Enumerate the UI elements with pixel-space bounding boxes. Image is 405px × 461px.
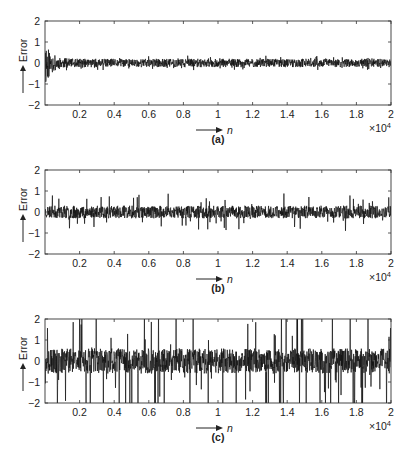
x-tick-label: 1.4 <box>280 257 295 269</box>
x-tick-label: 0.4 <box>107 257 122 269</box>
y-tick-label: 1 <box>34 334 40 346</box>
x-tick-label: 1 <box>215 108 221 120</box>
x-tick-label: 1.8 <box>349 257 364 269</box>
x-tick-label: 1.2 <box>245 406 260 418</box>
y-tick-label: 2 <box>34 164 40 176</box>
svg-text:n: n <box>227 124 233 136</box>
x-tick-label: 0.2 <box>72 257 87 269</box>
y-tick-label: −1 <box>28 78 40 90</box>
x-tick-label: 2 <box>388 257 394 269</box>
error-trace <box>45 309 391 414</box>
x-tick-label: 0.8 <box>176 257 191 269</box>
x-tick-label: 1.4 <box>280 108 295 120</box>
x-tick-label: 0.6 <box>141 406 156 418</box>
x-multiplier: ×104 <box>369 270 391 283</box>
x-tick-label: 1 <box>215 406 221 418</box>
svg-text:Error: Error <box>17 336 29 360</box>
y-tick-label: −2 <box>28 99 40 111</box>
x-multiplier: ×104 <box>369 121 391 134</box>
y-tick-label: −2 <box>28 397 40 409</box>
x-tick-label: 0.6 <box>141 108 156 120</box>
y-tick-label: 2 <box>34 15 40 27</box>
y-tick-label: 2 <box>34 313 40 325</box>
y-tick-label: 0 <box>34 206 40 218</box>
panel-caption: (b) <box>211 282 224 294</box>
x-tick-label: 0.6 <box>141 257 156 269</box>
chart-panel-1: −2−10120.20.40.60.811.21.41.61.82Errorn×… <box>17 15 394 146</box>
y-tick-label: 0 <box>34 57 40 69</box>
x-multiplier: ×104 <box>369 419 391 432</box>
y-tick-label: 0 <box>34 355 40 367</box>
x-tick-label: 1.6 <box>314 406 329 418</box>
x-tick-label: 0.4 <box>107 406 122 418</box>
y-tick-label: 1 <box>34 185 40 197</box>
y-tick-label: −1 <box>28 227 40 239</box>
x-tick-label: 1.6 <box>314 257 329 269</box>
x-tick-label: 0.2 <box>72 406 87 418</box>
panel-caption: (c) <box>212 431 225 443</box>
svg-text:n: n <box>227 422 233 434</box>
arrow-icon <box>20 65 26 71</box>
x-tick-label: 2 <box>388 406 394 418</box>
svg-text:Error: Error <box>17 187 29 211</box>
x-tick-label: 1.2 <box>245 257 260 269</box>
error-trace <box>45 194 391 231</box>
arrow-icon <box>20 363 26 369</box>
x-tick-label: 1.8 <box>349 406 364 418</box>
x-tick-label: 2 <box>388 108 394 120</box>
chart-panel-2: −2−10120.20.40.60.811.21.41.61.82Errorn×… <box>17 164 394 295</box>
x-tick-label: 1.4 <box>280 406 295 418</box>
x-tick-label: 0.2 <box>72 108 87 120</box>
chart-panel-3: −2−10120.20.40.60.811.21.41.61.82Errorn×… <box>17 309 394 444</box>
x-tick-label: 1 <box>215 257 221 269</box>
x-tick-label: 0.8 <box>176 108 191 120</box>
error-figure: −2−10120.20.40.60.811.21.41.61.82Errorn×… <box>0 0 405 461</box>
y-tick-label: −2 <box>28 248 40 260</box>
x-tick-label: 0.4 <box>107 108 122 120</box>
arrow-icon <box>20 214 26 220</box>
panel-caption: (a) <box>212 133 225 145</box>
svg-text:Error: Error <box>17 38 29 62</box>
x-tick-label: 1.6 <box>314 108 329 120</box>
svg-text:n: n <box>227 273 233 285</box>
x-tick-label: 1.2 <box>245 108 260 120</box>
y-tick-label: 1 <box>34 36 40 48</box>
error-trace <box>45 50 391 82</box>
y-tick-label: −1 <box>28 376 40 388</box>
x-tick-label: 0.8 <box>176 406 191 418</box>
x-tick-label: 1.8 <box>349 108 364 120</box>
